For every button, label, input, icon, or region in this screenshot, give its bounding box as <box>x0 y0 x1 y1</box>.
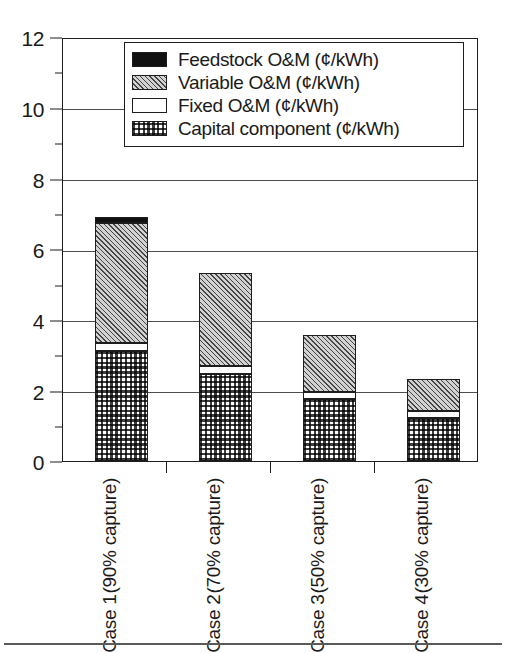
legend-item-capital[interactable]: Capital component (¢/kWh) <box>132 117 456 140</box>
y-tick-label-12: 12 <box>21 28 44 49</box>
bar-case-3[interactable] <box>303 336 356 461</box>
bar-segment-capital <box>199 374 252 461</box>
y-tick-major-10 <box>50 109 62 110</box>
x-tick-2 <box>270 462 271 473</box>
x-tick-3 <box>374 462 375 473</box>
bar-segment-fixed <box>95 343 148 351</box>
bar-segment-capital <box>407 418 460 461</box>
bar-segment-variable <box>199 273 252 366</box>
category-line-2: (90% capture) <box>99 478 120 593</box>
category-label-case-4: Case 4 (30% capture) <box>411 478 457 618</box>
category-label-case-3: Case 3 (50% capture) <box>307 478 353 618</box>
y-tick-minor-11 <box>55 73 62 74</box>
y-tick-major-0 <box>50 462 62 463</box>
bar-segment-capital <box>303 399 356 461</box>
y-tick-minor-5 <box>55 286 62 287</box>
y-tick-label-2: 2 <box>33 382 44 403</box>
y-tick-label-4: 4 <box>33 311 44 332</box>
category-label-case-1: Case 1 (90% capture) <box>99 478 145 618</box>
bar-segment-variable <box>303 335 356 392</box>
legend-swatch-variable-icon <box>132 75 167 90</box>
legend-swatch-capital-icon <box>132 121 167 136</box>
legend-swatch-fixed-icon <box>132 98 167 113</box>
legend-label-fixed: Fixed O&M (¢/kWh) <box>178 96 339 115</box>
legend-label-feedstock: Feedstock O&M (¢/kWh) <box>178 50 379 69</box>
x-tick-1 <box>166 462 167 473</box>
y-tick-minor-7 <box>55 215 62 216</box>
category-line-2: (50% capture) <box>307 478 328 593</box>
bar-segment-fixed <box>407 411 460 418</box>
bar-segment-feedstock <box>95 217 148 223</box>
bar-segment-fixed <box>303 392 356 399</box>
bar-case-2[interactable] <box>199 274 252 461</box>
bar-case-4[interactable] <box>407 380 460 461</box>
y-tick-label-10: 10 <box>21 99 44 120</box>
y-tick-major-12 <box>50 38 62 39</box>
y-tick-major-4 <box>50 321 62 322</box>
y-tick-minor-3 <box>55 356 62 357</box>
category-label-case-2: Case 2 (70% capture) <box>203 478 249 618</box>
legend-swatch-feedstock-icon <box>132 52 167 67</box>
bar-segment-variable <box>407 379 460 411</box>
y-tick-label-6: 6 <box>33 240 44 261</box>
y-tick-minor-1 <box>55 427 62 428</box>
gridline-8 <box>63 180 477 181</box>
y-axis: 12 10 8 6 4 2 0 <box>0 0 62 651</box>
legend-item-fixed[interactable]: Fixed O&M (¢/kWh) <box>132 94 456 117</box>
y-tick-minor-9 <box>55 144 62 145</box>
bar-case-1[interactable] <box>95 220 148 461</box>
legend-item-feedstock[interactable]: Feedstock O&M (¢/kWh) <box>132 48 456 71</box>
bar-segment-capital <box>95 351 148 461</box>
y-tick-major-6 <box>50 250 62 251</box>
legend-label-variable: Variable O&M (¢/kWh) <box>178 73 360 92</box>
y-tick-major-2 <box>50 392 62 393</box>
y-tick-label-8: 8 <box>33 170 44 191</box>
category-line-2: (70% capture) <box>203 478 224 593</box>
bar-segment-variable <box>95 223 148 343</box>
legend: Feedstock O&M (¢/kWh) Variable O&M (¢/kW… <box>124 42 464 147</box>
y-tick-label-0: 0 <box>33 452 44 473</box>
bar-segment-fixed <box>199 366 252 374</box>
category-line-2: (30% capture) <box>411 478 432 593</box>
y-tick-major-8 <box>50 180 62 181</box>
legend-item-variable[interactable]: Variable O&M (¢/kWh) <box>132 71 456 94</box>
legend-label-capital: Capital component (¢/kWh) <box>178 119 399 138</box>
footer-rule <box>4 643 502 645</box>
